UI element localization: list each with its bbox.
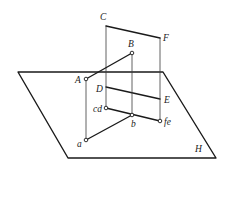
point-a-lower bbox=[84, 138, 88, 142]
point-cd bbox=[104, 106, 108, 110]
point-a-upper bbox=[84, 77, 88, 81]
label-A: A bbox=[74, 75, 81, 85]
point-b-lower bbox=[130, 113, 134, 117]
label-cd: cd bbox=[93, 104, 102, 114]
point-fe bbox=[158, 119, 162, 123]
label-D: D bbox=[95, 84, 103, 94]
label-B: B bbox=[128, 39, 134, 49]
label-b: b bbox=[131, 119, 136, 129]
projection-diagram: C F B A D E cd b fe a H bbox=[0, 0, 233, 208]
label-C: C bbox=[100, 12, 107, 22]
label-E: E bbox=[163, 95, 170, 105]
edge-c-f bbox=[106, 26, 160, 38]
edge-d-e bbox=[106, 87, 160, 99]
line-a-b-projection bbox=[86, 115, 132, 140]
label-F: F bbox=[162, 33, 169, 43]
label-fe: fe bbox=[164, 117, 171, 127]
plane-h bbox=[18, 72, 216, 158]
line-a-b bbox=[86, 53, 132, 79]
point-b-upper bbox=[130, 51, 134, 55]
label-a: a bbox=[77, 139, 82, 149]
label-H: H bbox=[194, 144, 203, 154]
